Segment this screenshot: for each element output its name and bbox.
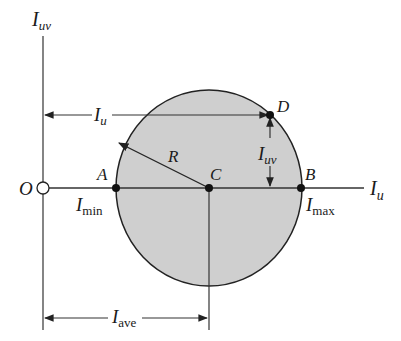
origin-label: O — [19, 178, 33, 199]
horizontal-axis-label: Iu — [369, 177, 384, 203]
i-min-label: Imin — [75, 194, 103, 218]
point-a-dot — [112, 184, 120, 192]
vertical-axis-label: Iuv — [31, 8, 51, 33]
i-max-label: Imax — [305, 194, 335, 218]
point-c-dot — [205, 184, 213, 192]
point-a-label: A — [96, 165, 108, 184]
point-b-label: B — [305, 165, 316, 184]
origin-marker — [37, 182, 49, 194]
i-u-label: Iu — [93, 104, 107, 128]
radius-label: R — [167, 147, 179, 166]
point-d-dot — [266, 111, 274, 119]
point-c-label: C — [210, 165, 222, 184]
point-d-label: D — [276, 97, 290, 116]
i-ave-label: Iave — [111, 306, 137, 330]
mohr-circle-diagram: Iuv Iu O A C B D R Iu Iuv Imin Imax Iave — [0, 0, 401, 341]
point-b-dot — [297, 184, 305, 192]
